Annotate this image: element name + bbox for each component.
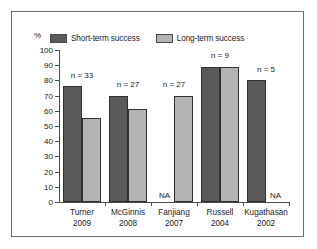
bar-group: NAn = 27Fanjiang2007 [151, 50, 197, 202]
na-label: NA [159, 191, 170, 200]
y-tick-label: 100 [40, 46, 53, 55]
chart-legend: Short-term success Long-term success [50, 32, 260, 44]
plot-area: 0102030405060708090100 n = 33Turner2009n… [59, 50, 289, 202]
bars-container [105, 50, 151, 202]
figure-panel: % Short-term success Long-term success 0… [11, 11, 304, 237]
bar-group: NAn = 5Kugathasan2002 [243, 50, 289, 202]
y-tick-label: 80 [44, 76, 53, 85]
x-label-year: 2007 [158, 219, 189, 230]
x-axis-group-label: McGinnis2008 [111, 208, 145, 229]
legend-swatch-long-term-icon [156, 34, 173, 43]
legend-label-short-term: Short-term success [71, 34, 140, 43]
x-label-author: Russell [207, 208, 234, 219]
y-tick-label: 20 [44, 167, 53, 176]
y-tick-mark [55, 202, 59, 203]
y-axis-unit-label: % [34, 31, 41, 40]
legend-label-long-term: Long-term success [177, 34, 244, 43]
x-axis-group-label: Kugathasan2002 [244, 208, 288, 229]
sample-size-label: n = 9 [211, 51, 229, 60]
bars-container: NA [151, 50, 197, 202]
bar-long-term[interactable] [82, 118, 101, 202]
bar-long-term[interactable] [220, 67, 239, 202]
x-label-author: Turner [70, 208, 94, 219]
y-tick-label: 30 [44, 152, 53, 161]
x-axis-line [59, 202, 289, 203]
x-label-year: 2009 [70, 219, 94, 230]
y-tick-label: 90 [44, 61, 53, 70]
y-tick-label: 10 [44, 182, 53, 191]
x-tick-mark [151, 202, 152, 206]
x-label-author: McGinnis [111, 208, 145, 219]
x-axis-group-label: Russell2004 [207, 208, 234, 229]
x-label-author: Fanjiang [158, 208, 189, 219]
bar-short-term[interactable] [63, 86, 82, 202]
y-tick-label: 70 [44, 91, 53, 100]
legend-item-long-term: Long-term success [156, 34, 244, 43]
x-label-year: 2002 [244, 219, 288, 230]
bars-container [197, 50, 243, 202]
legend-item-short-term: Short-term success [50, 34, 140, 43]
y-tick-label: 50 [44, 122, 53, 131]
x-label-year: 2008 [111, 219, 145, 230]
x-label-year: 2004 [207, 219, 234, 230]
bar-short-term[interactable] [201, 67, 220, 202]
y-tick-label: 60 [44, 106, 53, 115]
bar-long-term[interactable] [174, 96, 193, 202]
x-tick-mark [289, 202, 290, 206]
sample-size-label: n = 33 [71, 71, 93, 80]
bar-short-term[interactable] [109, 96, 128, 202]
x-label-author: Kugathasan [244, 208, 288, 219]
legend-swatch-short-term-icon [50, 34, 67, 43]
sample-size-label: n = 27 [163, 80, 185, 89]
bar-group: n = 33Turner2009 [59, 50, 105, 202]
x-tick-mark [197, 202, 198, 206]
x-axis-group-label: Turner2009 [70, 208, 94, 229]
bar-group: n = 9Russell2004 [197, 50, 243, 202]
bar-short-term[interactable] [247, 80, 266, 202]
sample-size-label: n = 27 [117, 80, 139, 89]
bar-group: n = 27McGinnis2008 [105, 50, 151, 202]
y-tick-label: 40 [44, 137, 53, 146]
x-tick-mark [243, 202, 244, 206]
x-axis-group-label: Fanjiang2007 [158, 208, 189, 229]
bar-long-term[interactable] [128, 109, 147, 202]
sample-size-label: n = 5 [257, 65, 275, 74]
bar-short-term-na: NA [155, 184, 174, 202]
x-tick-mark [105, 202, 106, 206]
na-label: NA [270, 191, 281, 200]
bar-long-term-na: NA [266, 184, 285, 202]
y-tick-label: 0 [49, 198, 53, 207]
